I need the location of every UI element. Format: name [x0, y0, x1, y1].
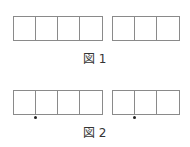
cell: [113, 17, 135, 40]
cell: [157, 17, 179, 40]
figure2-caption: 図 2: [83, 123, 106, 140]
dot-marker-left: [34, 116, 37, 119]
dot-marker-right: [133, 116, 136, 119]
cell: [58, 91, 80, 114]
cell: [36, 17, 58, 40]
cell: [80, 17, 102, 40]
cell: [113, 91, 135, 114]
fig1-group-right: [112, 16, 180, 41]
fig1-group-left: [13, 16, 103, 41]
fig2-group-left: [13, 90, 103, 115]
cell: [80, 91, 102, 114]
cell: [157, 91, 179, 114]
cell: [14, 17, 36, 40]
cell: [58, 17, 80, 40]
cell: [36, 91, 58, 114]
cell: [14, 91, 36, 114]
figure1-caption: 図 1: [83, 49, 106, 66]
cell: [135, 17, 157, 40]
fig2-group-right: [112, 90, 180, 115]
cell: [135, 91, 157, 114]
